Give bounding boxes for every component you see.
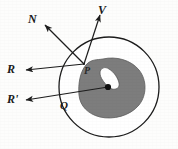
center-dot	[105, 84, 111, 90]
label-r: R	[7, 63, 15, 75]
vector-n-line	[45, 25, 84, 64]
label-v: V	[98, 4, 106, 16]
label-r-prime: R'	[7, 93, 18, 105]
label-p: P	[84, 66, 90, 76]
label-q: Q	[60, 100, 68, 111]
label-n: N	[28, 13, 37, 25]
geometry-figure: N V R R' P Q	[0, 0, 178, 149]
